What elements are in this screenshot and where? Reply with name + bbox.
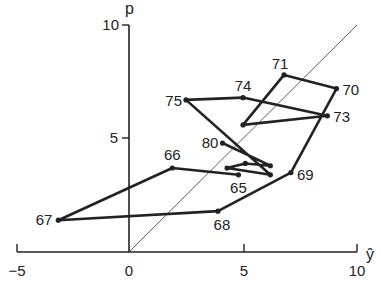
point-label: 69 (297, 166, 314, 183)
data-point (220, 140, 225, 145)
point-label: 66 (164, 146, 181, 163)
point-label: 75 (165, 92, 182, 109)
data-point (281, 72, 286, 77)
point-label: 67 (36, 211, 53, 228)
data-point (243, 161, 248, 166)
data-point (268, 172, 273, 177)
data-point (334, 86, 339, 91)
y-axis-label: p (125, 0, 134, 17)
y-tick-label: 10 (102, 16, 119, 33)
point-label: 74 (235, 77, 252, 94)
data-point (170, 165, 175, 170)
x-tick-label: 0 (125, 262, 133, 279)
data-point (268, 163, 273, 168)
data-point (325, 113, 330, 118)
data-point (240, 122, 245, 127)
data-point (288, 170, 293, 175)
data-points (56, 72, 339, 222)
x-tick-label: −5 (8, 262, 25, 279)
data-point (224, 165, 229, 170)
data-point (56, 218, 61, 223)
reference-line (129, 25, 357, 252)
point-label: 70 (342, 81, 359, 98)
x-tick-label: 5 (240, 262, 248, 279)
point-label: 80 (202, 134, 219, 151)
data-point (215, 209, 220, 214)
x-axis-label: ŷ (366, 246, 374, 263)
data-point (240, 95, 245, 100)
data-path (58, 75, 336, 220)
phase-chart: 6566676869707173747580 −5 0 5 10 5 10 p … (0, 0, 381, 286)
x-tick-label: 10 (349, 262, 366, 279)
point-label: 73 (333, 108, 350, 125)
point-label: 68 (214, 216, 231, 233)
data-point (183, 97, 188, 102)
point-label: 65 (230, 179, 247, 196)
point-label: 71 (272, 55, 289, 72)
y-tick-label: 5 (110, 129, 118, 146)
data-point (236, 172, 241, 177)
